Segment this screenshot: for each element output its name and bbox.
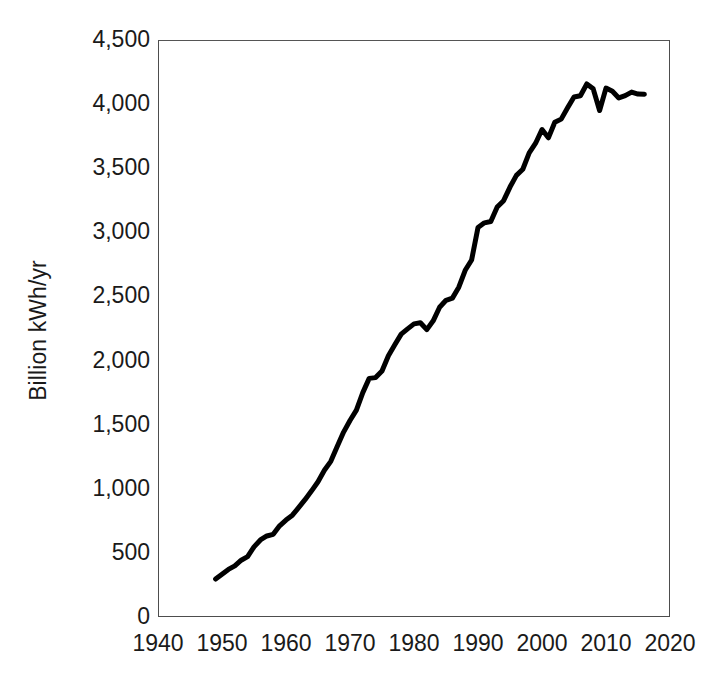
y-axis-tick-label: 0 xyxy=(0,605,150,628)
x-axis-tick-labels: 194019501960197019801990200020102020 xyxy=(0,632,704,666)
y-axis-tick-label: 3,500 xyxy=(0,156,150,179)
y-axis-tick-label: 1,000 xyxy=(0,477,150,500)
data-series-line xyxy=(216,84,645,579)
y-axis-tick-label: 2,000 xyxy=(0,349,150,372)
y-axis-tick-label: 500 xyxy=(0,541,150,564)
y-axis-tick-label: 3,000 xyxy=(0,220,150,243)
line-chart: Billion kWh/yr 05001,0001,5002,0002,5003… xyxy=(0,0,704,689)
y-axis-tick-label: 4,500 xyxy=(0,28,150,51)
y-axis-tick-label: 2,500 xyxy=(0,284,150,307)
y-axis-tick-label: 1,500 xyxy=(0,413,150,436)
x-axis-tick-label: 2020 xyxy=(625,632,704,655)
plot-area xyxy=(158,40,670,617)
y-axis-tick-labels: 05001,0001,5002,0002,5003,0003,5004,0004… xyxy=(0,0,150,689)
y-axis-tick-label: 4,000 xyxy=(0,92,150,115)
